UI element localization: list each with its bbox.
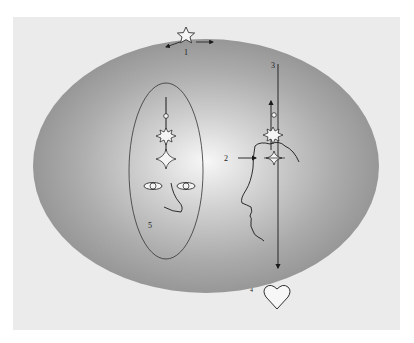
right-eye-icon [177, 183, 195, 190]
label-4: 4 [250, 287, 253, 293]
outer-ellipse [33, 39, 379, 293]
profile-circle-icon [272, 113, 277, 118]
label-5: 5 [148, 221, 152, 230]
bottom-heart-group: 4 [250, 285, 290, 309]
left-eye-icon [144, 183, 162, 190]
diagram-canvas: 1 5 3 2 4 [0, 0, 414, 343]
face-circle-icon [164, 114, 169, 119]
label-2: 2 [224, 154, 228, 163]
heart-icon [264, 285, 290, 309]
label-3: 3 [271, 61, 275, 70]
label-1: 1 [184, 48, 188, 57]
